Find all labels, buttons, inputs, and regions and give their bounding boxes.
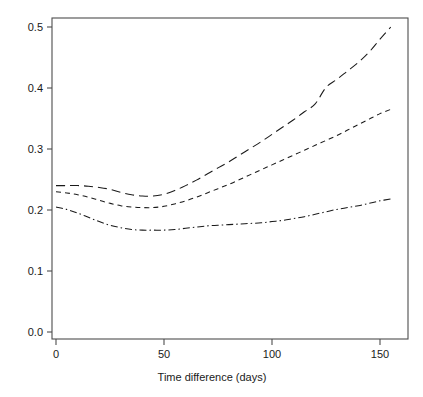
x-tick-label: 50	[158, 348, 170, 360]
y-tick-label: 0.5	[28, 21, 43, 33]
y-tick-label: 0.3	[28, 143, 43, 155]
y-tick-label: 0.1	[28, 265, 43, 277]
line-chart: 0.00.10.20.30.40.5 050100150 Time differ…	[0, 0, 423, 397]
y-tick-label: 0.2	[28, 204, 43, 216]
x-tick-label: 0	[53, 348, 59, 360]
x-tick-label: 100	[263, 348, 281, 360]
x-tick-label: 150	[371, 348, 389, 360]
y-tick-label: 0.4	[28, 82, 43, 94]
x-axis-title: Time difference (days)	[158, 371, 267, 383]
chart-container: 0.00.10.20.30.40.5 050100150 Time differ…	[0, 0, 423, 397]
chart-background	[0, 0, 423, 397]
y-tick-label: 0.0	[28, 326, 43, 338]
